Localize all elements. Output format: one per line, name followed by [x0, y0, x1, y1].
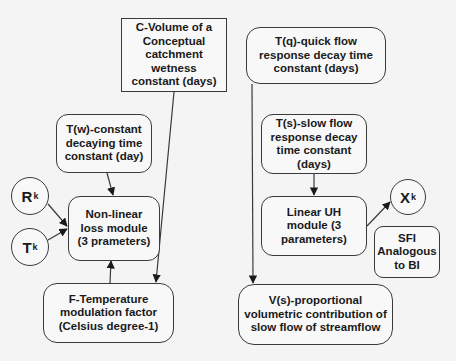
node-sfi-label: SFI Analogous to BI	[377, 232, 436, 273]
node-t-quick: T(q)-quick flow response decay time cons…	[246, 27, 386, 84]
node-c-volume-label: C-Volume of a Conceptual catchment wetne…	[127, 21, 221, 89]
node-f-temp: F-Temperature modulation factor (Celsius…	[43, 283, 174, 343]
node-x-k: Xk	[390, 179, 426, 215]
node-t-quick-label: T(q)-quick flow response decay time cons…	[252, 35, 380, 76]
edge-tq-to-vs	[252, 84, 253, 283]
edge-rk-to-nonlinear	[48, 204, 67, 226]
node-nonlinear-loss: Non-linear loss module (3 prameters)	[68, 196, 160, 261]
node-v-slow-label: V(s)-proportional volumetric contributio…	[244, 294, 387, 335]
node-t-k: Tk	[11, 228, 49, 266]
node-nonlinear-loss-label: Non-linear loss module (3 prameters)	[74, 208, 154, 249]
edge-ftemp-to-nonlinear	[110, 261, 111, 283]
x-k-sub: k	[411, 192, 416, 202]
edge-tk-to-nonlinear	[48, 229, 67, 240]
edge-linearuh-to-xk	[367, 202, 390, 226]
r-k-main: R	[22, 188, 33, 205]
diagram-canvas: C-Volume of a Conceptual catchment wetne…	[0, 0, 456, 361]
edge-tw-to-nonlinear	[107, 173, 113, 195]
node-linear-uh-label: Linear UH module (3 parameters)	[267, 206, 361, 247]
node-t-slow-label: T(s)-slow flow response decay time const…	[267, 117, 361, 171]
node-sfi: SFI Analogous to BI	[374, 226, 440, 278]
node-f-temp-label: F-Temperature modulation factor (Celsius…	[49, 293, 168, 334]
t-k-sub: k	[33, 242, 38, 252]
node-t-w-label: T(w)-constant decaying time constant (da…	[62, 123, 146, 164]
node-r-k: Rk	[11, 177, 49, 215]
node-v-slow: V(s)-proportional volumetric contributio…	[238, 284, 393, 345]
r-k-sub: k	[33, 191, 38, 201]
node-t-w: T(w)-constant decaying time constant (da…	[56, 114, 152, 173]
t-k-main: T	[22, 239, 31, 256]
node-linear-uh: Linear UH module (3 parameters)	[261, 196, 367, 256]
node-t-slow: T(s)-slow flow response decay time const…	[261, 114, 367, 174]
x-k-main: X	[400, 189, 410, 206]
node-c-volume: C-Volume of a Conceptual catchment wetne…	[121, 18, 227, 92]
